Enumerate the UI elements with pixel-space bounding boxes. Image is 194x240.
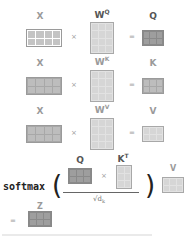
row1-weight-label: WQ (87, 8, 117, 20)
times-operator-1: × (71, 33, 77, 41)
wv-matrix (90, 118, 114, 150)
row2-weight-label: WK (87, 55, 117, 67)
softmax-v-matrix (162, 177, 184, 193)
z-matrix (28, 211, 52, 227)
row1-input-label: X (25, 11, 55, 21)
softmax-label: softmax (3, 181, 45, 192)
row3-weight-label: WV (87, 103, 117, 115)
numerator-q-label: Q (65, 155, 95, 165)
softmax-v-label: V (158, 164, 188, 173)
x-matrix-2 (26, 77, 62, 95)
row2-input-label: X (25, 58, 55, 68)
equals-operator-1: = (129, 33, 135, 41)
row1-output-label: Q (138, 11, 168, 21)
kt-matrix (116, 165, 132, 189)
softmax-times-operator: × (101, 172, 107, 180)
numerator-kt-label: KT (108, 152, 138, 164)
wq-matrix (90, 22, 114, 54)
equals-operator-2: = (129, 81, 135, 89)
open-paren: ( (52, 172, 62, 198)
close-paren: ) (145, 172, 155, 198)
equals-operator-3: = (129, 129, 135, 137)
result-z-label: Z (25, 202, 55, 211)
caption-line (2, 234, 152, 236)
row3-output-label: V (138, 106, 168, 116)
v-matrix (142, 126, 164, 142)
x-matrix-3 (26, 125, 62, 143)
result-equals-operator: = (10, 217, 16, 225)
sqrt-dk-label: √dk (93, 195, 105, 204)
softmax-q-matrix (68, 168, 92, 184)
row2-output-label: K (138, 58, 168, 68)
fraction-bar (63, 192, 139, 193)
row3-input-label: X (25, 106, 55, 116)
times-operator-2: × (71, 81, 77, 89)
times-operator-3: × (71, 129, 77, 137)
wk-matrix (90, 70, 114, 102)
q-matrix (142, 30, 164, 46)
x-matrix-1 (26, 29, 62, 47)
k-matrix (142, 78, 164, 94)
